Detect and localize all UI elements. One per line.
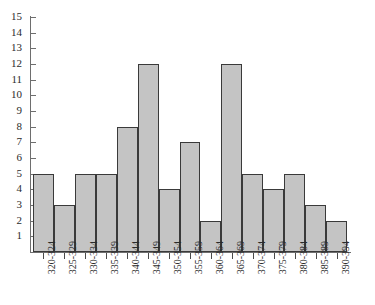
x-axis-tick-label: 330-334: [89, 241, 99, 301]
x-axis-tick-label: 385-389: [320, 241, 330, 301]
y-axis-tick-label: 1: [0, 230, 22, 241]
x-axis-tick: [316, 253, 317, 259]
y-axis-tick-label: 4: [0, 183, 22, 194]
histogram-bar: [180, 142, 201, 252]
x-axis-tick-label: 320-324: [47, 241, 57, 301]
x-axis-tick: [127, 253, 128, 259]
x-axis-tick-label: 345-349: [152, 241, 162, 301]
y-axis-tick-label: 13: [0, 42, 22, 53]
x-axis-tick: [337, 253, 338, 259]
x-axis-tick: [43, 253, 44, 259]
x-axis-tick: [148, 253, 149, 259]
histogram-bar: [138, 64, 159, 252]
x-axis-tick-label: 365-369: [236, 241, 246, 301]
x-axis-tick-label: 375-379: [278, 241, 288, 301]
x-axis-tick-label: 340-344: [131, 241, 141, 301]
y-axis-tick-label: 10: [0, 89, 22, 100]
y-axis-tick-label: 15: [0, 11, 22, 22]
histogram-bar: [117, 127, 138, 252]
y-axis-tick-label: 6: [0, 152, 22, 163]
y-axis-tick-label: 8: [0, 121, 22, 132]
x-axis-tick-label: 370-374: [257, 241, 267, 301]
x-axis-tick-label: 390-394: [341, 241, 351, 301]
y-axis-tick-label: 2: [0, 215, 22, 226]
y-axis-tick-label: 5: [0, 168, 22, 179]
x-axis-tick-label: 360-364: [215, 241, 225, 301]
x-axis-tick-label: 335-339: [110, 241, 120, 301]
plot-area: 151413121110987654321 320-324325-329330-…: [0, 0, 375, 305]
x-axis-tick-label: 380-384: [299, 241, 309, 301]
x-axis-tick: [85, 253, 86, 259]
y-axis-tick-label: 11: [0, 74, 22, 85]
x-axis-tick: [64, 253, 65, 259]
x-axis-tick-label: 355-359: [194, 241, 204, 301]
x-axis-tick: [232, 253, 233, 259]
histogram-figure: 151413121110987654321 320-324325-329330-…: [0, 0, 375, 305]
x-axis-tick: [190, 253, 191, 259]
x-axis-tick: [106, 253, 107, 259]
y-axis-tick-label: 3: [0, 199, 22, 210]
x-axis-tick: [211, 253, 212, 259]
x-axis-tick: [295, 253, 296, 259]
y-axis-tick-label: 14: [0, 27, 22, 38]
x-axis-tick-label: 350-354: [173, 241, 183, 301]
histogram-bar: [221, 64, 242, 252]
x-axis-tick-label: 325-329: [68, 241, 78, 301]
x-axis-tick: [274, 253, 275, 259]
x-axis-tick: [253, 253, 254, 259]
y-axis-line: [30, 16, 31, 253]
y-axis-tick-label: 9: [0, 105, 22, 116]
y-axis-tick-label: 7: [0, 136, 22, 147]
y-axis-tick-label: 12: [0, 58, 22, 69]
x-axis-tick: [169, 253, 170, 259]
